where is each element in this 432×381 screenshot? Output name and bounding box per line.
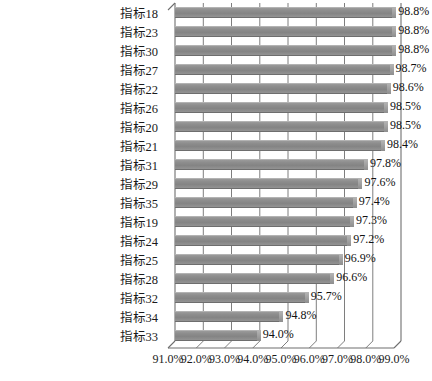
bar [175,159,367,170]
bar [175,121,387,132]
x-tick-label: 97.0% [322,352,353,367]
bar [175,216,353,227]
bar-value-label: 98.5% [390,120,421,131]
bar-value-label: 98.8% [398,25,429,36]
bar-end-cap [381,140,385,151]
x-tick-label: 95.0% [266,352,297,367]
bar-end-cap [347,235,351,246]
x-tick-label: 99.0% [379,352,410,367]
bar-end-cap [257,330,261,341]
x-tick-label: 96.0% [294,352,325,367]
bar-end-cap [364,159,368,170]
bar-end-cap [390,64,394,75]
bar [175,197,356,208]
bar [175,330,260,341]
bar [175,26,395,37]
x-tick-label: 94.0% [237,352,268,367]
bar [175,83,390,94]
bar-value-label: 94.0% [263,329,294,340]
bar [175,140,384,151]
bar-value-label: 98.8% [398,44,429,55]
bar-value-label: 98.5% [390,101,421,112]
x-tick-label: 92.0% [181,352,212,367]
bar [175,102,387,113]
bar [175,64,392,75]
x-tick-label: 93.0% [209,352,240,367]
bar [175,7,395,18]
bar-value-label: 97.4% [359,196,390,207]
bar-value-label: 94.8% [285,310,316,321]
bar-value-label: 95.7% [311,291,342,302]
x-tick-label: 91.0% [153,352,184,367]
bar-end-cap [387,83,391,94]
value-axis: 91.0%92.0%93.0%94.0%95.0%96.0%97.0%98.0%… [0,352,432,372]
bar-value-label: 97.3% [356,215,387,226]
bar-end-cap [384,121,388,132]
bar [175,235,350,246]
x-tick-label: 98.0% [350,352,381,367]
bar-end-cap [350,216,354,227]
bar-value-label: 98.4% [387,139,418,150]
bar-chart: 指标18 指标23 指标30 指标27 指标22 指标26 指标20 指标21 … [0,0,432,381]
bar-value-label: 96.9% [345,253,376,264]
bar-value-label: 98.8% [398,6,429,17]
bar-series: 98.8%98.8%98.8%98.7%98.6%98.5%98.5%98.4%… [0,0,432,346]
bar [175,45,395,56]
bar-end-cap [384,102,388,113]
bar [175,311,282,322]
bar-end-cap [392,7,396,18]
bar-value-label: 97.6% [364,177,395,188]
bar-end-cap [392,26,396,37]
bar-end-cap [392,45,396,56]
bar-end-cap [305,292,309,303]
bar-end-cap [358,178,362,189]
bar [175,292,308,303]
bar-end-cap [279,311,283,322]
bar [175,273,333,284]
bar [175,254,342,265]
bar [175,178,361,189]
bar-end-cap [339,254,343,265]
bar-value-label: 97.8% [370,158,401,169]
bar-value-label: 97.2% [353,234,384,245]
bar-end-cap [330,273,334,284]
bar-value-label: 98.7% [396,63,427,74]
bar-value-label: 96.6% [336,272,367,283]
bar-value-label: 98.6% [393,82,424,93]
bar-end-cap [353,197,357,208]
